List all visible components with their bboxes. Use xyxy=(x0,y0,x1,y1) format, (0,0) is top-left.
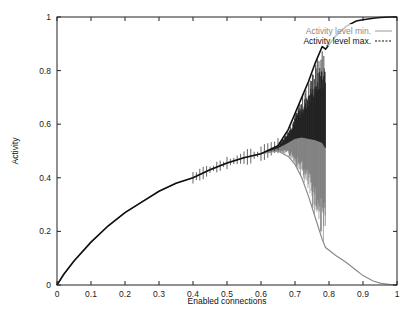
x-tick-label: 0.3 xyxy=(153,289,165,299)
x-tick-label: 0.2 xyxy=(119,289,131,299)
x-tick-label: 1 xyxy=(395,289,400,299)
legend-min-label: Activity level min. xyxy=(306,26,371,36)
y-tick-label: 1 xyxy=(46,12,51,22)
y-tick-label: 0.2 xyxy=(39,226,51,236)
x-axis-label: Enabled connections xyxy=(188,296,267,306)
x-tick-label: 0.1 xyxy=(85,289,97,299)
series-min-line xyxy=(57,151,397,285)
x-tick-label: 0.9 xyxy=(357,289,369,299)
x-tick-label: 0 xyxy=(55,289,60,299)
plot-frame xyxy=(57,17,397,285)
y-tick-label: 0.6 xyxy=(39,119,51,129)
legend-max-label: Activity level max. xyxy=(303,36,371,46)
activity-chart: 00.10.20.30.40.50.60.70.80.91 00.20.40.6… xyxy=(0,0,412,317)
y-axis-label: Activity xyxy=(10,137,20,165)
x-tick-label: 0.8 xyxy=(323,289,335,299)
y-tick-label: 0.8 xyxy=(39,66,51,76)
legend: Activity level min. Activity level max. xyxy=(288,24,394,46)
noise-band xyxy=(193,51,325,241)
y-tick-label: 0.4 xyxy=(39,173,51,183)
series-max-line xyxy=(57,17,397,285)
y-tick-label: 0 xyxy=(46,280,51,290)
y-axis-ticks: 00.20.40.60.81 xyxy=(39,12,397,290)
x-tick-label: 0.7 xyxy=(289,289,301,299)
